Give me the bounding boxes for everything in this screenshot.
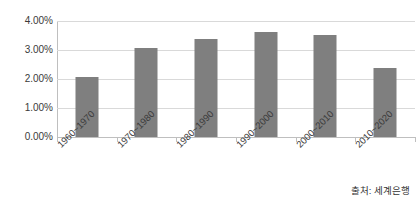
- x-axis-labels: 1960~19701970~19801980~19901990~20002000…: [57, 142, 418, 187]
- y-axis-labels: 0.00%1.00%2.00%3.00%4.00%: [0, 0, 53, 203]
- source-note: 출처: 세계은행: [351, 183, 410, 197]
- y-axis-tick-label: 0.00%: [5, 132, 53, 142]
- y-axis-tick-label: 4.00%: [5, 16, 53, 26]
- plot-area: [57, 21, 415, 137]
- y-axis-tick-label: 2.00%: [5, 74, 53, 84]
- bar-chart: 0.00%1.00%2.00%3.00%4.00% 1960~19701970~…: [0, 0, 418, 203]
- chart-title: [0, 0, 418, 3]
- y-axis-tick-label: 3.00%: [5, 45, 53, 55]
- y-axis-tick-label: 1.00%: [5, 103, 53, 113]
